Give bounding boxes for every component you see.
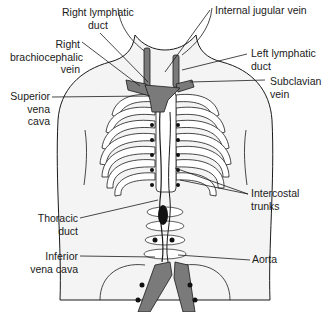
label-inferior-vena-cava: Inferior vena cava: [10, 250, 78, 275]
label-aorta: Aorta: [252, 253, 277, 266]
label-thoracic-duct: Thoracic duct: [10, 212, 78, 237]
label-internal-jugular-vein: Internal jugular vein: [215, 4, 307, 17]
lymphatic-diagram: Right lymphatic duct Right brachiocephal…: [0, 0, 331, 312]
cisterna-chyli: [158, 205, 168, 225]
label-right-lymphatic-duct: Right lymphatic duct: [62, 6, 134, 31]
label-intercostal-trunks: Intercostal trunks: [251, 187, 299, 212]
label-superior-vena-cava: Superior vena cava: [2, 90, 50, 128]
label-subclavian-vein: Subclavian vein: [270, 75, 321, 100]
label-right-brachiocephalic-vein: Right brachiocephalic vein: [10, 38, 80, 76]
label-left-lymphatic-duct: Left lymphatic duct: [251, 47, 316, 72]
